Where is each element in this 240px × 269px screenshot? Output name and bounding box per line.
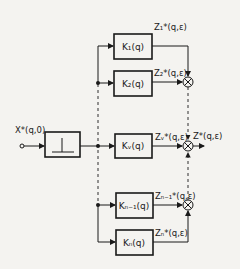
output-label: Z*(q,ε) [193, 131, 222, 141]
junction-dot [96, 144, 100, 148]
block-kn-1: Kₙ₋₁(q) [116, 193, 153, 218]
summing-junction-top [183, 77, 193, 87]
block-k2: K₂(q) [114, 71, 152, 96]
input-label: X*(q,0) [15, 125, 45, 135]
block-diagram: X*(q,0) K₁(q) K₂(q) Kᵥ(q) Kₙ₋₁(q) Kₙ(q) [0, 0, 240, 269]
svg-text:K₂(q): K₂(q) [122, 79, 144, 89]
output-label-k2: Z₂*(q,ε) [154, 68, 187, 78]
block-kn: Kₙ(q) [116, 230, 153, 255]
input-terminal [20, 144, 44, 148]
block-kv: Kᵥ(q) [115, 134, 152, 158]
svg-text:Kᵥ(q): Kᵥ(q) [122, 141, 144, 151]
summing-junction-main [183, 141, 193, 151]
summing-junction-bottom [183, 200, 193, 210]
output-label-kv: Zᵥ*(q,ε) [155, 132, 188, 142]
output-label-kn-1: Zₙ₋₁*(q,ε) [155, 191, 196, 201]
block-k1: K₁(q) [114, 34, 152, 59]
output-label-kn: Zₙ*(q,ε) [155, 228, 188, 238]
svg-text:K₁(q): K₁(q) [122, 42, 144, 52]
sampler-block [45, 132, 80, 157]
output-label-k1: Z₁*(q,ε) [154, 22, 187, 32]
svg-text:Kₙ₋₁(q): Kₙ₋₁(q) [119, 201, 150, 211]
svg-text:Kₙ(q): Kₙ(q) [123, 238, 145, 248]
